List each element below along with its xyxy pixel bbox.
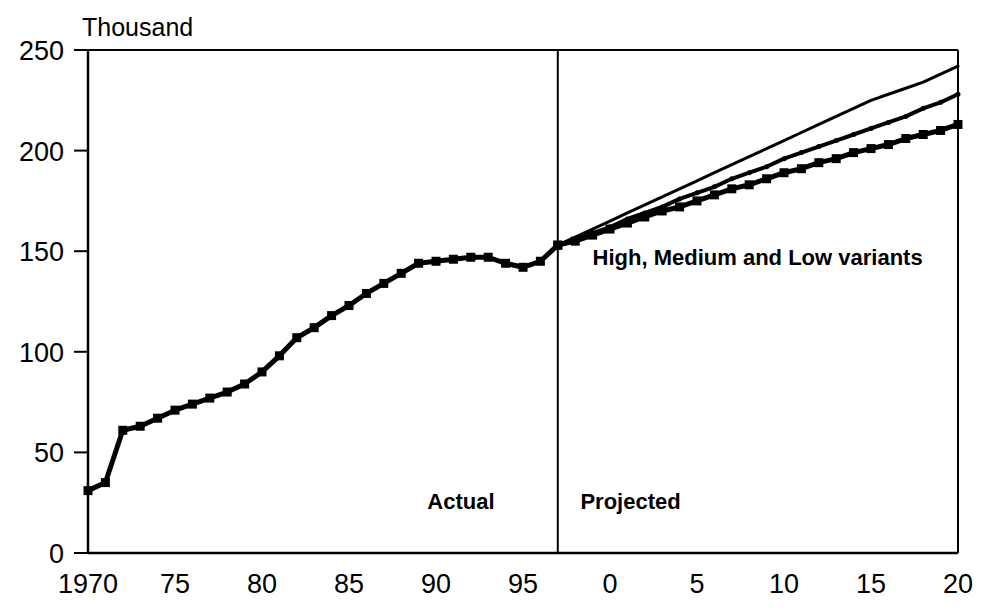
y-tick-label: 150 (19, 237, 64, 267)
y-axis-units-label: Thousand (82, 13, 193, 41)
data-point-marker (118, 426, 127, 435)
y-tick-label: 0 (49, 539, 64, 569)
data-point-marker (466, 253, 475, 262)
series-layer (84, 66, 963, 495)
data-point-marker (171, 406, 180, 415)
data-point-marker (188, 400, 197, 409)
data-point-marker (867, 144, 876, 153)
x-tick-label: 80 (247, 569, 277, 599)
population-projection-chart: 250200150100500 1970758085909505101520 T… (0, 0, 981, 616)
series-line (88, 245, 558, 490)
data-point-marker (954, 120, 963, 129)
data-point-marker (275, 351, 284, 360)
x-axis-tick-labels: 1970758085909505101520 (58, 569, 973, 599)
y-axis-tick-labels: 250200150100500 (19, 36, 64, 569)
data-point-marker (345, 301, 354, 310)
data-point-marker (727, 184, 736, 193)
series-medium (555, 92, 960, 248)
data-point-marker (729, 176, 734, 181)
data-point-marker (919, 130, 928, 139)
x-tick-label: 20 (943, 569, 973, 599)
series-line (558, 124, 958, 245)
data-point-marker (501, 259, 510, 268)
variants-label: High, Medium and Low variants (593, 245, 923, 270)
data-point-marker (956, 92, 961, 97)
series-high (558, 66, 958, 245)
data-point-marker (588, 231, 597, 240)
y-tick-label: 50 (34, 438, 64, 468)
data-point-marker (432, 257, 441, 266)
data-point-marker (449, 255, 458, 264)
annotation-layer: High, Medium and Low variantsActualProje… (427, 245, 922, 513)
data-point-marker (780, 168, 789, 177)
chart-container: 250200150100500 1970758085909505101520 T… (0, 0, 981, 616)
data-point-marker (553, 241, 562, 250)
x-tick-label: 90 (421, 569, 451, 599)
data-point-marker (223, 388, 232, 397)
x-tick-label: 15 (856, 569, 886, 599)
data-point-marker (832, 154, 841, 163)
data-point-marker (884, 140, 893, 149)
x-tick-label: 85 (334, 569, 364, 599)
data-point-marker (782, 156, 787, 161)
data-point-marker (484, 253, 493, 262)
data-point-marker (710, 190, 719, 199)
data-point-marker (797, 164, 806, 173)
series-line (558, 66, 958, 245)
data-point-marker (764, 164, 769, 169)
data-point-marker (536, 257, 545, 266)
data-point-marker (623, 219, 632, 228)
plot-frame (88, 50, 958, 553)
data-point-marker (816, 144, 821, 149)
data-point-marker (814, 158, 823, 167)
data-point-marker (936, 126, 945, 135)
data-point-marker (327, 311, 336, 320)
data-point-marker (397, 269, 406, 278)
actual-label: Actual (427, 489, 494, 514)
data-point-marker (851, 132, 856, 137)
data-point-marker (712, 184, 717, 189)
data-point-marker (747, 170, 752, 175)
data-point-marker (292, 333, 301, 342)
series-line (558, 94, 958, 245)
y-tick-label: 200 (19, 137, 64, 167)
y-tick-label: 100 (19, 338, 64, 368)
data-point-marker (901, 134, 910, 143)
data-point-marker (658, 206, 667, 215)
data-point-marker (762, 174, 771, 183)
data-point-marker (205, 394, 214, 403)
data-point-marker (745, 180, 754, 189)
data-point-marker (938, 100, 943, 105)
series-actual (84, 241, 563, 495)
y-axis-tick-marks (74, 50, 88, 553)
data-point-marker (379, 279, 388, 288)
data-point-marker (240, 379, 249, 388)
data-point-marker (886, 120, 891, 125)
data-point-marker (903, 114, 908, 119)
x-tick-label: 10 (769, 569, 799, 599)
x-tick-label: 75 (160, 569, 190, 599)
data-point-marker (869, 126, 874, 131)
data-point-marker (258, 367, 267, 376)
series-low (553, 120, 962, 250)
data-point-marker (693, 196, 702, 205)
y-tick-label: 250 (19, 36, 64, 66)
x-tick-label: 95 (508, 569, 538, 599)
data-point-marker (834, 138, 839, 143)
projected-label: Projected (580, 489, 680, 514)
data-point-marker (921, 106, 926, 111)
data-point-marker (362, 289, 371, 298)
data-point-marker (606, 225, 615, 234)
data-point-marker (310, 323, 319, 332)
data-point-marker (571, 237, 580, 246)
x-tick-label: 5 (689, 569, 704, 599)
x-tick-label: 0 (602, 569, 617, 599)
data-point-marker (849, 148, 858, 157)
data-point-marker (84, 486, 93, 495)
x-tick-label: 1970 (58, 569, 118, 599)
data-point-marker (640, 212, 649, 221)
data-point-marker (799, 150, 804, 155)
data-point-marker (414, 259, 423, 268)
data-point-marker (695, 190, 700, 195)
data-point-marker (136, 422, 145, 431)
